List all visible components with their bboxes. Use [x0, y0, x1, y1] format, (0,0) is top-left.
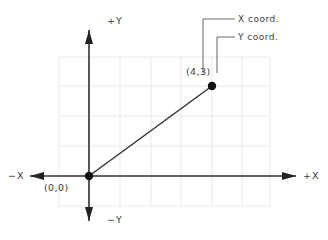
origin-point-dot [85, 172, 93, 180]
vector-line-origin-to-point [89, 86, 212, 176]
callout-label-y-coord: Y coord. [238, 33, 278, 42]
plotted-point-coordinate-label: (4,3) [186, 67, 211, 77]
x-axis-arrow-positive [282, 172, 296, 180]
axis-label-positive-y: +Y [107, 16, 123, 26]
axis-x [30, 172, 296, 180]
coordinate-diagram: +Y −Y −X +X (0,0) (4,3) X coord. Y coord… [0, 0, 328, 240]
x-axis-arrow-negative [30, 172, 44, 180]
grid-lines [59, 57, 270, 206]
y-axis-arrow-negative [85, 207, 93, 221]
plotted-point-dot [208, 82, 216, 90]
diagram-canvas [0, 0, 328, 240]
origin-coordinate-label: (0,0) [44, 183, 69, 193]
axis-label-negative-y: −Y [107, 215, 123, 225]
callout-leader-y-coord [217, 37, 235, 73]
y-axis-arrow-positive [85, 30, 93, 44]
callout-leader-x-coord [203, 19, 235, 73]
axis-label-positive-x: +X [303, 171, 319, 181]
axis-y [85, 30, 93, 221]
callout-label-x-coord: X coord. [238, 15, 279, 24]
axis-label-negative-x: −X [8, 171, 24, 181]
